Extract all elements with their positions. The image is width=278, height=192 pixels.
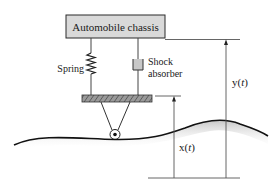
y-label: y(t) — [232, 76, 248, 89]
chassis-box: Automobile chassis — [66, 15, 165, 38]
shock-label-line1: Shock — [148, 56, 173, 67]
chassis-label: Automobile chassis — [72, 21, 158, 33]
axle-plate — [82, 95, 152, 102]
y-displacement-arrow: y(t) — [224, 40, 248, 179]
suspension-diagram: Automobile chassis Spring Shock absorber — [0, 0, 278, 192]
x-label: x(t) — [179, 141, 195, 154]
spring-label: Spring — [57, 63, 84, 74]
spring: Spring — [57, 38, 95, 95]
shock-absorber: Shock absorber — [133, 38, 183, 95]
road-surface — [14, 121, 268, 150]
shock-label-line2: absorber — [148, 68, 183, 79]
wheel-assembly — [101, 102, 130, 140]
